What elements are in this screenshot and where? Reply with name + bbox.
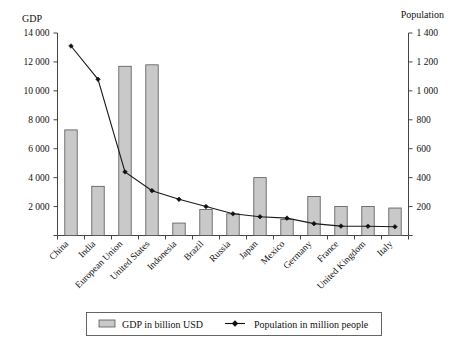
legend-label-gdp: GDP in billion USD: [122, 319, 203, 330]
right-tick-label: 1 400: [417, 28, 439, 38]
legend-swatch-gdp: [99, 320, 115, 327]
bar: [146, 65, 158, 236]
category-label: Japan: [237, 239, 260, 262]
bar: [362, 207, 374, 236]
category-label: Indonesia: [145, 238, 179, 272]
bar: [200, 209, 212, 235]
bar: [65, 130, 77, 236]
left-axis-title: GDP: [22, 13, 42, 24]
bar: [254, 178, 266, 236]
bar-series: [65, 65, 401, 236]
bar: [308, 196, 320, 235]
legend-label-population: Population in million people: [254, 319, 369, 330]
gdp-population-chart: GDP Population 2 0004 0006 0008 00010 00…: [0, 0, 466, 344]
right-tick-label: 200: [417, 202, 432, 212]
category-labels: ChinaIndiaEuropean UnionUnited StatesInd…: [47, 238, 394, 291]
right-tick-label: 400: [417, 173, 432, 183]
right-tick-label: 800: [417, 115, 432, 125]
category-label: Italy: [375, 239, 395, 259]
category-label: China: [47, 238, 71, 262]
bar: [173, 223, 185, 235]
left-tick-label: 2 000: [28, 202, 50, 212]
category-label: United Kingdom: [315, 238, 368, 291]
left-tick-label: 10 000: [23, 86, 49, 96]
left-tick-label: 8 000: [28, 115, 50, 125]
left-tick-label: 12 000: [23, 57, 49, 67]
bar: [119, 66, 131, 235]
right-tick-label: 1 200: [417, 57, 439, 67]
category-label: Brazil: [182, 239, 206, 263]
population-marker: [177, 197, 182, 202]
category-label: Germany: [281, 239, 313, 271]
left-tick-label: 4 000: [28, 173, 50, 183]
right-axis-ticks: 2004006008001 0001 2001 400: [409, 28, 439, 235]
bar: [227, 214, 239, 236]
chart-container: GDP Population 2 0004 0006 0008 00010 00…: [0, 0, 466, 344]
bar: [335, 207, 347, 236]
category-label: France: [315, 239, 340, 264]
category-label: European Union: [73, 239, 124, 290]
line-series: [69, 44, 398, 229]
right-axis-title: Population: [401, 9, 444, 20]
bar: [92, 186, 104, 235]
bar: [389, 208, 401, 235]
left-tick-label: 6 000: [28, 144, 50, 154]
left-axis-ticks: 2 0004 0006 0008 00010 00012 00014 000: [23, 28, 57, 235]
category-label: Russia: [207, 238, 233, 264]
category-axis-ticks: [58, 236, 409, 240]
right-tick-label: 600: [417, 144, 432, 154]
left-tick-label: 14 000: [23, 28, 49, 38]
bar: [281, 220, 293, 236]
population-marker: [204, 204, 209, 209]
category-label: India: [77, 238, 98, 259]
right-tick-label: 1 000: [417, 86, 439, 96]
